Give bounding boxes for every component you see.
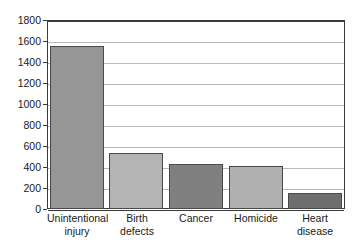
bar-chart: 180016001400120010008006004002000 Uninte…: [0, 0, 353, 246]
x-axis-label: Cancer: [166, 212, 226, 225]
x-axis-label-line: defects: [107, 225, 167, 238]
y-axis-tick: 400: [23, 161, 47, 173]
x-axis-label-line: Unintentional: [47, 212, 108, 224]
y-axis-tick-label: 1400: [18, 56, 41, 68]
x-axis-labels: UnintentionalinjuryBirthdefectsCancerHom…: [47, 212, 345, 246]
x-axis-label: Unintentionalinjury: [47, 212, 107, 238]
y-axis-tick-label: 200: [23, 182, 41, 194]
x-axis-label-line: Heart: [302, 212, 328, 224]
x-axis-label-line: Birth: [126, 212, 148, 224]
y-axis-tick-label: 1800: [18, 14, 41, 26]
y-axis-tick: 200: [23, 182, 47, 194]
y-axis-tick-label: 1200: [18, 77, 41, 89]
x-axis-label-line: Cancer: [179, 212, 213, 224]
x-axis-label-line: Homicide: [234, 212, 278, 224]
x-axis-label: Birthdefects: [107, 212, 167, 238]
x-axis-label: Heartdisease: [285, 212, 345, 238]
y-axis-tick-label: 800: [23, 119, 41, 131]
bar: [229, 166, 283, 209]
bar: [169, 164, 223, 209]
y-axis-tick: 1600: [18, 35, 47, 47]
y-axis-tick-label: 600: [23, 140, 41, 152]
y-axis-tick-label: 0: [35, 203, 41, 215]
gridline: [48, 210, 344, 211]
bar: [288, 193, 342, 209]
y-axis: 180016001400120010008006004002000: [0, 20, 47, 209]
y-axis-tick-label: 1000: [18, 98, 41, 110]
x-axis-label: Homicide: [226, 212, 286, 225]
y-axis-tick: 1400: [18, 56, 47, 68]
y-axis-tick: 800: [23, 119, 47, 131]
y-axis-tick: 1800: [18, 14, 47, 26]
bar: [50, 46, 104, 209]
y-axis-tick-label: 1600: [18, 35, 41, 47]
y-axis-tick: 600: [23, 140, 47, 152]
y-axis-tick: 1000: [18, 98, 47, 110]
bar: [109, 153, 163, 209]
y-axis-tick-label: 400: [23, 161, 41, 173]
y-axis-tick: 1200: [18, 77, 47, 89]
bars-layer: [47, 20, 345, 209]
y-axis-tick: 0: [35, 203, 47, 215]
x-axis-label-line: disease: [285, 225, 345, 238]
x-axis-label-line: injury: [47, 225, 107, 238]
